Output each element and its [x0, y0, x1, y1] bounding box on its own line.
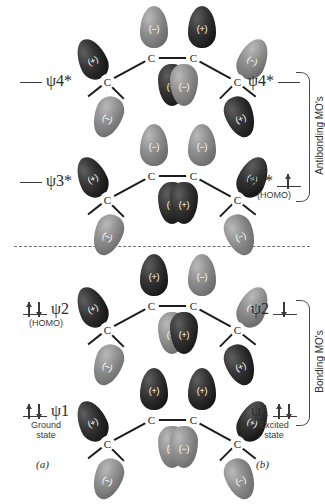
level-label-right-psi3-star: ψ3* (HOMO) — [244, 172, 304, 200]
orbital-subscript: 2 — [261, 300, 269, 317]
lobe-c2-upper: (+) — [140, 368, 168, 410]
electron-arrow-up — [25, 302, 33, 317]
level-note-right: Excitedstate — [244, 420, 304, 440]
carbon-atom-c1: C — [100, 74, 115, 89]
level-label-right-psi1: ψ1 Excitedstate — [244, 402, 304, 440]
orbital-symbol: ψ2 — [251, 300, 269, 317]
orbital-symbol: ψ3* — [247, 172, 273, 189]
orbital-diagram-psi2: (+)(−)(+)(−)(−)(+)(−)(+)CCCC — [82, 254, 247, 372]
lobe-c2-upper: (−) — [140, 124, 168, 166]
orbital-symbol: ψ3* — [46, 172, 72, 189]
brace-label-antibonding: Antibonding MO's — [314, 71, 325, 201]
carbon-atom-c4: C — [230, 74, 245, 89]
level-note-left: (HOMO) — [8, 318, 84, 328]
brace-antibonding — [296, 72, 310, 202]
energy-level-line — [20, 182, 42, 183]
orbital-star: * — [64, 72, 72, 89]
level-note-right: (HOMO) — [244, 190, 304, 200]
lobe-c4-lower: (−) — [220, 454, 261, 503]
level-label-left-psi3-star: ψ3* — [8, 172, 84, 190]
orbital-subscript: 2 — [61, 300, 69, 317]
orbital-occupancy — [273, 404, 297, 420]
level-label-left-psi4-star: ψ4* — [8, 72, 84, 90]
carbon-atom-c3: C — [186, 168, 201, 183]
orbital-occupancy — [23, 302, 47, 318]
orbital-subscript: 1 — [61, 402, 69, 419]
electron-arrow-up — [25, 404, 33, 419]
orbital-symbol: ψ4* — [248, 72, 274, 89]
carbon-atom-c2: C — [144, 168, 159, 183]
orbital-star: * — [265, 172, 273, 189]
orbital-occupancy — [273, 302, 297, 318]
orbital-subscript: 4 — [258, 72, 266, 89]
carbon-atom-c4: C — [230, 192, 245, 207]
carbon-atom-c2: C — [144, 298, 159, 313]
lobe-c3-upper: (+) — [188, 368, 216, 410]
orbital-symbol: ψ2 — [51, 300, 69, 317]
level-label-left-psi1: ψ1Groundstate — [8, 402, 84, 440]
electron-arrow-down — [280, 302, 288, 317]
orbital-subscript: 3 — [56, 172, 64, 189]
lobe-c1-lower: (−) — [88, 210, 129, 259]
lobe-c3-upper: (−) — [188, 124, 216, 166]
carbon-atom-c1: C — [100, 436, 115, 451]
mo-level-psi4-star: (+)(−)(−)(+)(+)(−)(−)(+)CCCC — [0, 6, 324, 126]
orbital-diagram-psi4-star: (+)(−)(−)(+)(+)(−)(−)(+)CCCC — [82, 6, 247, 124]
orbital-star: * — [266, 72, 274, 89]
orbital-diagram-psi3-star: (+)(−)(−)(+)(−)(+)(+)(−)CCCC — [82, 124, 247, 242]
lobe-c3-upper: (−) — [188, 254, 216, 296]
electron-arrow-down — [35, 404, 43, 419]
panel-caption-a: (a) — [36, 458, 49, 470]
electron-arrow-up — [284, 174, 292, 189]
carbon-atom-c4: C — [230, 322, 245, 337]
level-label-right-psi4-star: ψ4* — [244, 72, 304, 90]
orbital-subscript: 4 — [56, 72, 64, 89]
carbon-atom-c3: C — [186, 298, 201, 313]
antibonding-bonding-divider — [14, 246, 310, 247]
lobe-c3-lower: (−) — [170, 426, 198, 468]
carbon-atom-c4: C — [230, 436, 245, 451]
carbon-atom-c3: C — [186, 412, 201, 427]
orbital-symbol: ψ4* — [46, 72, 72, 89]
lobe-c3-lower: (−) — [170, 64, 198, 106]
electron-arrow-down — [35, 302, 43, 317]
panel-caption-b: (b) — [256, 458, 269, 470]
level-label-right-psi2: ψ2 — [244, 300, 304, 318]
orbital-occupancy — [23, 404, 47, 420]
energy-level-line — [20, 82, 42, 83]
level-note-left: Groundstate — [8, 420, 84, 440]
orbital-symbol: ψ1 — [51, 402, 69, 419]
lobe-c2-upper: (+) — [140, 254, 168, 296]
lobe-c1-lower: (−) — [88, 454, 129, 503]
carbon-atom-c2: C — [144, 412, 159, 427]
electron-arrow-up — [275, 404, 283, 419]
lobe-c2-upper: (−) — [140, 6, 168, 48]
carbon-atom-c1: C — [100, 192, 115, 207]
orbital-symbol: ψ1 — [251, 402, 269, 419]
orbital-subscript: 1 — [261, 402, 269, 419]
orbital-diagram-psi1: (+)(−)(+)(−)(+)(−)(+)(−)CCCC — [82, 368, 247, 486]
level-label-left-psi2: ψ2(HOMO) — [8, 300, 84, 328]
carbon-atom-c1: C — [100, 322, 115, 337]
lobe-c3-lower: (+) — [170, 182, 198, 224]
orbital-subscript: 3 — [257, 172, 265, 189]
brace-label-bonding: Bonding MO's — [314, 302, 325, 422]
carbon-atom-c2: C — [144, 50, 159, 65]
lobe-c3-upper: (+) — [188, 6, 216, 48]
brace-bonding — [296, 300, 310, 426]
lobe-c4-lower: (−) — [220, 210, 261, 259]
carbon-atom-c3: C — [186, 50, 201, 65]
orbital-star: * — [64, 172, 72, 189]
electron-arrow-down — [285, 404, 293, 419]
lobe-c3-lower: (+) — [170, 312, 198, 354]
